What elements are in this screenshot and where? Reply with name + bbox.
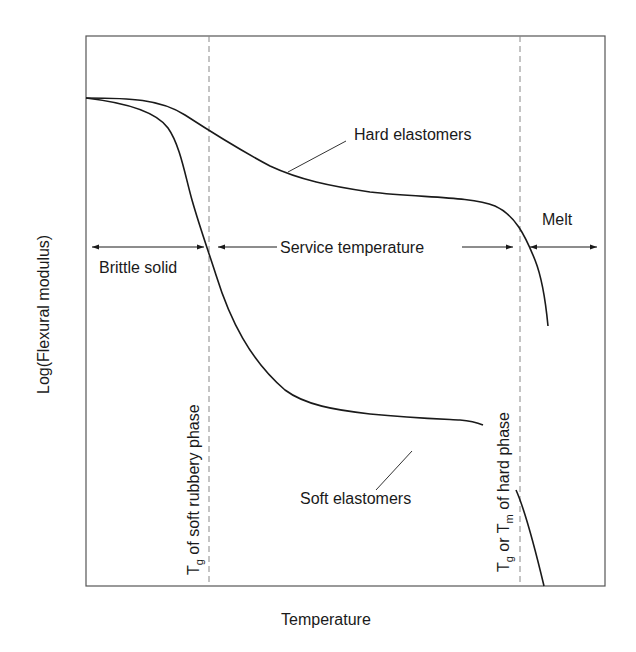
x-axis-label: Temperature bbox=[281, 611, 371, 628]
soft-elastomers-label: Soft elastomers bbox=[300, 490, 411, 507]
tg-soft-marker-label: Tg of soft rubbery phase bbox=[185, 404, 205, 575]
hard-elastomers-curve bbox=[86, 98, 548, 326]
y-axis-label: Log(Flexural modulus) bbox=[35, 235, 52, 394]
hard-elastomers-leader bbox=[288, 141, 346, 172]
brittle-solid-label: Brittle solid bbox=[99, 259, 177, 276]
modulus-temperature-diagram: Hard elastomers Soft elastomers Brittle … bbox=[0, 0, 636, 652]
hard-elastomers-label: Hard elastomers bbox=[354, 126, 471, 143]
melt-label: Melt bbox=[542, 211, 573, 228]
service-temperature-label: Service temperature bbox=[280, 239, 424, 256]
soft-elastomers-leader bbox=[376, 451, 412, 490]
tg-hard-marker-label: Tg or Tm of hard phase bbox=[495, 412, 515, 572]
